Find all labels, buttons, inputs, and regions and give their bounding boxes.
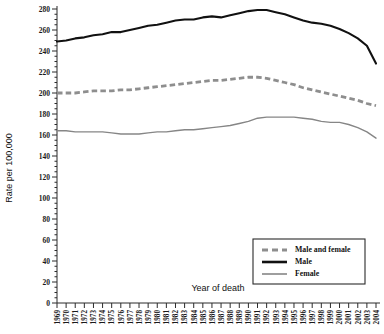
x-tick-label: 1983 xyxy=(181,310,189,325)
y-tick-label: 80 xyxy=(43,215,51,224)
x-tick-label: 1996 xyxy=(300,310,308,325)
x-tick-label: 2004 xyxy=(373,310,381,325)
x-tick-label: 1994 xyxy=(282,310,290,325)
x-tick-label: 1990 xyxy=(245,310,253,325)
x-tick-label: 1974 xyxy=(99,310,107,325)
x-tick-label: 1970 xyxy=(63,310,71,325)
x-tick-label: 1992 xyxy=(263,310,271,325)
chart-canvas: 020406080100120140160180200220240260280 … xyxy=(0,0,384,334)
x-tick-label: 1993 xyxy=(273,310,281,325)
x-tick-label: 1999 xyxy=(327,310,335,325)
x-tick-label: 1975 xyxy=(108,310,116,325)
y-tick-label: 200 xyxy=(39,89,51,98)
y-tick-label: 160 xyxy=(39,131,51,140)
y-axis-ticks xyxy=(52,9,57,303)
x-tick-label: 1987 xyxy=(218,310,226,325)
series-line-female xyxy=(57,117,376,138)
legend-label: Female xyxy=(295,269,320,278)
y-axis-title: Rate per 100,000 xyxy=(4,133,14,203)
x-tick-label: 1980 xyxy=(154,310,162,325)
x-tick-label: 1988 xyxy=(227,310,235,325)
line-chart: 020406080100120140160180200220240260280 … xyxy=(0,0,384,334)
x-tick-label: 1995 xyxy=(291,310,299,325)
x-tick-label: 1985 xyxy=(200,310,208,325)
x-tick-label: 1977 xyxy=(127,310,135,325)
x-axis-ticks xyxy=(57,303,376,308)
series-line-male xyxy=(57,10,376,64)
x-tick-label: 2000 xyxy=(336,310,344,325)
x-tick-label: 1978 xyxy=(136,310,144,325)
chart-legend: Male and femaleMaleFemale xyxy=(253,239,365,284)
x-tick-label: 1979 xyxy=(145,310,153,325)
y-tick-label: 180 xyxy=(39,110,51,119)
x-tick-label: 1989 xyxy=(236,310,244,325)
x-tick-label: 1986 xyxy=(209,310,217,325)
x-axis-tick-labels: 1969197019711972197319741975197619771978… xyxy=(54,310,381,325)
x-tick-label: 2003 xyxy=(364,310,372,325)
y-tick-label: 140 xyxy=(39,152,51,161)
y-tick-label: 240 xyxy=(39,47,51,56)
x-tick-label: 2001 xyxy=(345,310,353,325)
x-tick-label: 1997 xyxy=(309,310,317,325)
x-tick-label: 1969 xyxy=(54,310,62,325)
series-line-male-and-female xyxy=(57,77,376,105)
y-tick-label: 120 xyxy=(39,173,51,182)
y-axis-tick-labels: 020406080100120140160180200220240260280 xyxy=(39,5,51,308)
legend-label: Male and female xyxy=(295,245,351,254)
y-tick-label: 20 xyxy=(43,278,51,287)
legend-label: Male xyxy=(295,257,312,266)
x-axis-title: Year of death xyxy=(191,283,244,293)
y-tick-label: 0 xyxy=(46,299,50,308)
y-tick-label: 220 xyxy=(39,68,51,77)
x-tick-label: 1991 xyxy=(254,310,262,325)
x-tick-label: 1982 xyxy=(172,310,180,325)
y-tick-label: 280 xyxy=(39,5,51,14)
y-tick-label: 100 xyxy=(39,194,51,203)
y-tick-label: 60 xyxy=(43,236,51,245)
x-tick-label: 1981 xyxy=(163,310,171,325)
x-tick-label: 1984 xyxy=(191,310,199,325)
x-tick-label: 1972 xyxy=(81,310,89,325)
x-tick-label: 1998 xyxy=(318,310,326,325)
x-tick-label: 1973 xyxy=(90,310,98,325)
y-tick-label: 40 xyxy=(43,257,51,266)
x-tick-label: 1976 xyxy=(118,310,126,325)
y-tick-label: 260 xyxy=(39,26,51,35)
x-tick-label: 2002 xyxy=(355,310,363,325)
x-tick-label: 1971 xyxy=(72,310,80,325)
